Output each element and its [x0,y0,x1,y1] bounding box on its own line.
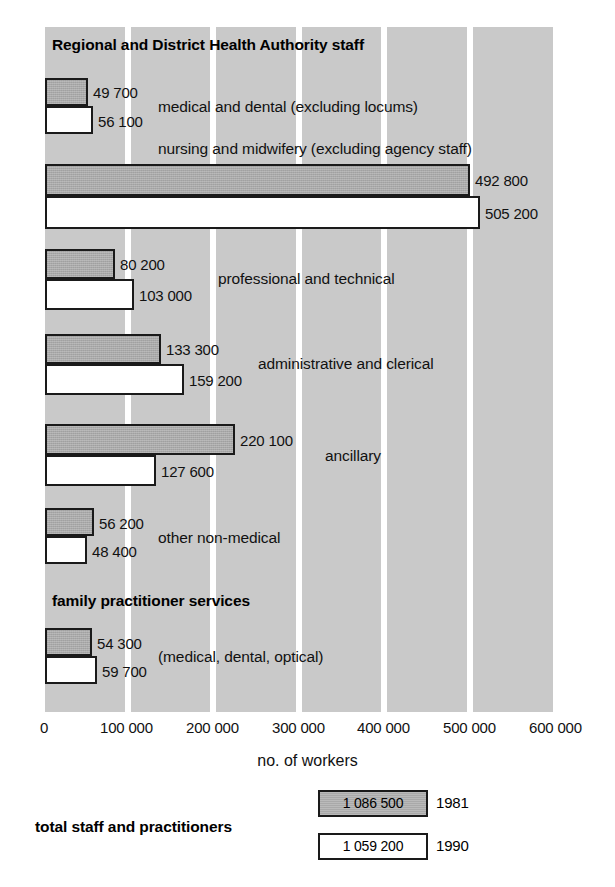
value-administrative-1990: 159 200 [189,372,242,389]
label-administrative: administrative and clerical [258,355,434,373]
value-medical-dental-1981: 49 700 [93,84,138,101]
value-ancillary-1990: 127 600 [161,463,214,480]
axis-tick-200000: 200 000 [186,719,239,736]
group-heading-rdha: Regional and District Health Authority s… [52,36,364,54]
bar-ancillary-1981 [45,424,235,455]
value-professional-1981: 80 200 [120,256,165,273]
value-medical-dental-1990: 56 100 [98,113,143,130]
axis-tick-600000: 600 000 [529,719,582,736]
value-ancillary-1981: 220 100 [240,432,293,449]
bar-professional-1981 [45,249,115,279]
axis-tick-0: 0 [40,719,48,736]
chart-root: Regional and District Health Authority s… [0,0,615,887]
bar-other-1981 [45,508,94,536]
group-heading-fps: family practitioner services [52,592,250,610]
label-medical-dental: medical and dental (excluding locums) [158,98,418,116]
value-professional-1990: 103 000 [139,287,192,304]
label-nursing: nursing and midwifery (excluding agency … [158,140,472,158]
grid-band-5 [473,27,553,712]
totals-value-1981: 1 086 500 [318,790,428,817]
bar-fps-1981 [45,628,92,656]
legend-year-1981: 1981 [436,794,469,811]
value-fps-1990: 59 700 [102,663,147,680]
value-fps-1981: 54 300 [97,635,142,652]
value-other-1990: 48 400 [92,543,137,560]
label-professional: professional and technical [218,270,395,288]
bar-medical-dental-1981 [45,78,88,106]
label-fps-detail: (medical, dental, optical) [158,648,323,666]
axis-tick-500000: 500 000 [443,719,496,736]
bar-nursing-1981 [45,164,470,196]
bar-administrative-1981 [45,334,161,364]
totals-label: total staff and practitioners [35,818,232,836]
axis-tick-400000: 400 000 [357,719,410,736]
axis-tick-100000: 100 000 [100,719,153,736]
totals-value-1990: 1 059 200 [318,833,428,860]
bar-nursing-1990 [45,196,480,229]
bar-medical-dental-1990 [45,106,93,134]
bar-professional-1990 [45,279,134,310]
bar-ancillary-1990 [45,455,156,486]
bar-fps-1990 [45,656,97,684]
value-other-1981: 56 200 [99,515,144,532]
value-administrative-1981: 133 300 [166,341,219,358]
value-nursing-1981: 492 800 [475,172,528,189]
axis-title-x: no. of workers [0,752,615,770]
label-other-non-medical: other non-medical [158,529,280,547]
value-nursing-1990: 505 200 [485,205,538,222]
bar-other-1990 [45,536,87,564]
legend-year-1990: 1990 [436,837,469,854]
axis-tick-300000: 300 000 [272,719,325,736]
label-ancillary: ancillary [325,447,381,465]
bar-administrative-1990 [45,364,184,395]
